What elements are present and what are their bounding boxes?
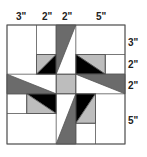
right-dimension-labels: 3" 2" 2" 5" xyxy=(128,37,139,126)
top-label-1: 2" xyxy=(42,11,53,22)
quilt-block xyxy=(7,25,125,144)
top-label-0: 3" xyxy=(16,11,27,22)
top-label-3: 5" xyxy=(96,11,107,22)
top-dimension-labels: 3" 2" 2" 5" xyxy=(16,11,107,22)
top-label-2: 2" xyxy=(62,11,73,22)
quilt-diagram: 3" 2" 2" 5" 3" 2" 2" 5" xyxy=(0,0,147,157)
right-label-0: 3" xyxy=(128,37,139,48)
center-light-square xyxy=(56,74,76,94)
right-label-1: 2" xyxy=(128,59,139,70)
right-label-2: 2" xyxy=(128,80,139,91)
right-label-3: 5" xyxy=(128,115,139,126)
